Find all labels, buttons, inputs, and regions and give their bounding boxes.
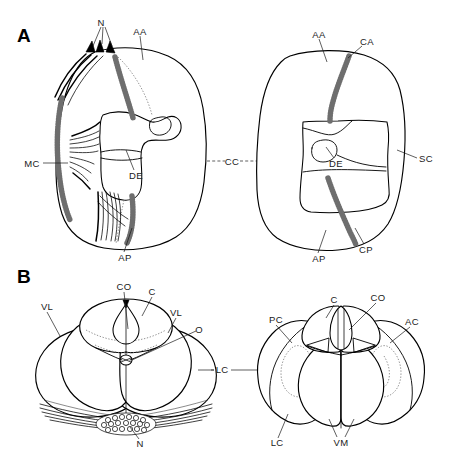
label-de-left: DE xyxy=(129,170,143,181)
nodule-cell xyxy=(101,422,106,427)
label-ac: AC xyxy=(405,316,419,327)
nerve-spine-2 xyxy=(96,40,104,52)
panel-a-left-view xyxy=(43,27,206,252)
panel-a-right-view xyxy=(257,39,417,253)
label-mc: MC xyxy=(24,158,39,169)
label-c-b-right: C xyxy=(330,294,337,305)
leader-vl-left xyxy=(47,312,60,336)
nodule-cell xyxy=(130,420,135,425)
nodule-group xyxy=(96,413,156,435)
nodule-cell xyxy=(112,415,117,420)
nodule-cell xyxy=(144,422,149,427)
label-lc-b: LC xyxy=(271,437,284,448)
label-ap-right: AP xyxy=(312,253,325,264)
nodule-cell xyxy=(137,421,142,426)
panel-letter-b: B xyxy=(17,266,31,287)
nodule-cell xyxy=(112,426,117,431)
label-ap-left: AP xyxy=(118,252,131,263)
nodule-cell xyxy=(133,415,138,420)
nodule-cell xyxy=(134,426,139,431)
label-n-left: N xyxy=(97,17,104,28)
label-aa-left: AA xyxy=(133,26,147,37)
label-vl-right: VL xyxy=(170,307,182,318)
label-sc: SC xyxy=(419,153,433,164)
label-co-b-right: CO xyxy=(371,292,386,303)
label-o: O xyxy=(195,324,203,335)
nodule-cell xyxy=(115,420,120,425)
leader-n-left-2 xyxy=(102,27,103,44)
nodule-cell xyxy=(126,414,131,419)
label-pc: PC xyxy=(269,314,283,325)
label-ca: CA xyxy=(360,36,374,47)
label-lc-mid: LC xyxy=(216,364,229,375)
label-de-right: DE xyxy=(329,158,343,169)
leader-n-left-3 xyxy=(105,27,112,46)
nodule-cell xyxy=(123,420,128,425)
figure-root: A xyxy=(0,0,450,460)
panel-a: A xyxy=(17,17,433,264)
label-cc: CC xyxy=(225,156,239,167)
panel-b-left-view xyxy=(36,292,217,439)
nodule-cell xyxy=(141,427,146,432)
label-n-b: N xyxy=(136,438,143,449)
label-cp: CP xyxy=(359,244,373,255)
figure-canvas: A xyxy=(0,0,450,460)
label-co-b-left: CO xyxy=(117,281,132,292)
nodule-cell xyxy=(119,414,124,419)
nodule-cell xyxy=(108,421,113,426)
nodule-cell xyxy=(119,426,124,431)
panel-b: B xyxy=(17,266,424,449)
label-aa-right: AA xyxy=(312,29,326,40)
label-c-b-left: C xyxy=(148,286,155,297)
nodule-cell xyxy=(105,427,110,432)
panel-letter-a: A xyxy=(17,25,31,46)
label-vl-left: VL xyxy=(41,301,53,312)
label-vm: VM xyxy=(334,437,349,448)
nerve-spine-1 xyxy=(86,41,95,52)
